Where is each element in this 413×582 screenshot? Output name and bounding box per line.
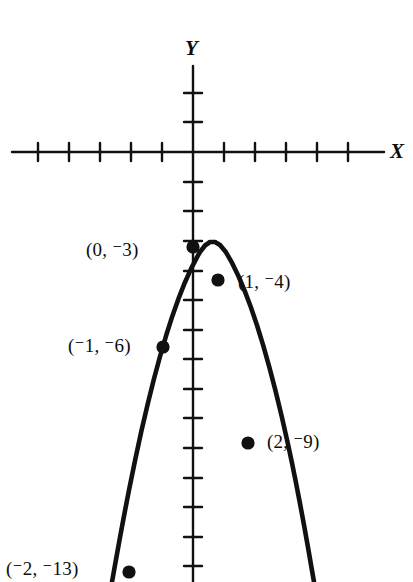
data-point-x2 xyxy=(241,436,254,449)
point-label-0-neg3: (0, ⁻3) xyxy=(86,238,139,261)
point-label-2-neg9: (2, ⁻9) xyxy=(267,430,320,453)
point-label-neg2-neg13: (⁻2, ⁻13) xyxy=(6,557,79,580)
x-axis-label-text: X xyxy=(390,139,404,163)
data-point-xneg2 xyxy=(122,565,135,578)
data-point-x1 xyxy=(211,273,224,286)
data-point-x0 xyxy=(186,240,199,253)
coordinate-plane-svg xyxy=(0,0,413,582)
marked-data-points xyxy=(122,240,254,578)
parabola-graph-figure: Y X (0, ⁻3) (1, ⁻4) (⁻1, ⁻6) (2, ⁻9) (⁻2… xyxy=(0,0,413,582)
point-label-1-neg4: (1, ⁻4) xyxy=(238,270,291,293)
point-label-neg1-neg6: (⁻1, ⁻6) xyxy=(68,334,131,357)
parabola-curve xyxy=(112,242,314,582)
y-axis-group xyxy=(184,66,202,582)
x-axis-group xyxy=(12,143,384,161)
y-axis-label-text: Y xyxy=(185,36,198,60)
data-point-xneg1 xyxy=(156,340,169,353)
x-axis-label: X xyxy=(390,139,404,164)
y-axis-label: Y xyxy=(185,36,198,61)
